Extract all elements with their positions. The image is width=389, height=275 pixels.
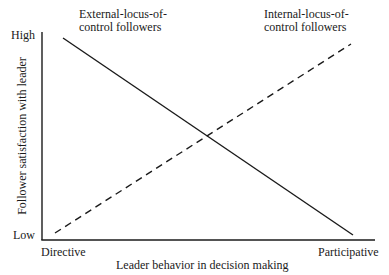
internal-locus-label-line2: control followers (264, 21, 346, 34)
y-axis-title: Follower satisfaction with leader (15, 57, 30, 215)
x-axis-title: Leader behavior in decision making (116, 259, 289, 272)
y-tick-low: Low (13, 229, 35, 242)
x-tick-directive: Directive (41, 246, 86, 259)
internal-locus-line (55, 44, 351, 233)
x-tick-participative: Participative (318, 246, 379, 259)
chart-canvas (0, 0, 389, 275)
y-tick-high: High (11, 29, 35, 42)
external-locus-line (63, 38, 353, 235)
external-locus-label-line2: control followers (79, 21, 161, 34)
